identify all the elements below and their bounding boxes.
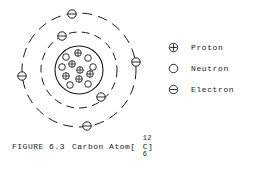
caption-bracket-close: ] [148,142,153,151]
neutron-circle [90,64,97,71]
neutron-circle [85,55,92,62]
electron-outer-shell [132,58,140,66]
nucleus-proton [75,50,82,57]
figure-caption: FIGURE 6.3Carbon Atom[12C6] [12,143,153,151]
caption-figure-number: FIGURE 6.3 [12,142,65,151]
nucleus-proton [77,67,84,74]
legend-item-neutron: Neutron [168,63,234,74]
electron-inner-shell [58,32,66,40]
nucleus-neutron [85,55,92,62]
electron-inner-shell [97,93,105,101]
electron-outer-shell [68,10,76,18]
caption-title: Carbon Atom[ [72,142,136,151]
nucleus-neutron [67,82,74,89]
nucleus-proton [63,73,70,80]
neutron-circle [63,54,70,61]
neutron-circle [67,82,74,89]
nuclide-notation: 12C6 [143,143,148,151]
legend: Proton Neutron Electron [168,42,234,95]
legend-label-neutron: Neutron [191,65,229,73]
nucleus-neutron [63,54,70,61]
mass-number: 12 [143,135,152,142]
atomic-number: 6 [143,151,148,158]
nucleus-neutron [85,81,92,88]
neutron-circle [59,64,66,71]
circle-plus-icon [168,42,179,53]
electron-outer-shell [83,122,91,130]
legend-item-proton: Proton [168,42,234,53]
nucleus [55,46,103,94]
nucleus-neutron [90,64,97,71]
circle-minus-icon [168,84,179,95]
circle-open-icon [168,63,179,74]
legend-label-electron: Electron [191,86,234,94]
neutron-circle [85,81,92,88]
nucleus-proton [87,71,94,78]
nucleus-proton [76,76,83,83]
electron-outer-shell [18,72,26,80]
legend-item-electron: Electron [168,84,234,95]
legend-label-proton: Proton [191,44,223,52]
nucleus-neutron [59,64,66,71]
nucleus-proton [69,61,76,68]
figure-carbon-atom: Proton Neutron Electron FIGURE 6.3Carbon… [0,0,253,174]
